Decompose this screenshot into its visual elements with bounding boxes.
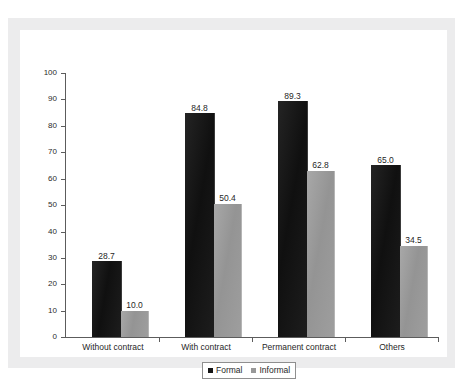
chart-legend: Formal Informal [202,362,296,379]
y-axis-label-70: 70 [33,148,57,156]
legend-label-formal: Formal [216,366,242,375]
y-axis-label-30: 30 [33,254,57,262]
legend-item-formal[interactable]: Formal [208,366,242,375]
y-axis-label-50: 50 [33,201,57,209]
x-tick-sep-4 [438,337,439,342]
bar-value-formal-2: 84.8 [180,104,219,113]
figure-root: 100 90 80 70 60 50 40 30 [0,0,463,381]
legend-swatch-formal-icon [208,368,213,373]
bar-value-informal-2: 50.4 [209,194,246,203]
y-axis-label-90: 90 [33,95,57,103]
y-axis-label-0: 0 [33,333,57,341]
bar-formal-others[interactable] [371,165,401,337]
bar-value-informal-3: 62.8 [302,161,339,170]
bar-informal-permanent-contract[interactable] [307,171,335,337]
legend-swatch-informal-icon [251,368,256,373]
y-tick-0 [61,337,66,338]
bar-formal-with-contract[interactable] [185,113,215,337]
bar-value-informal-1: 10.0 [116,301,153,310]
bar-informal-without-contract[interactable] [121,311,149,337]
y-axis-label-10: 10 [33,307,57,315]
bar-informal-with-contract[interactable] [214,204,242,337]
bar-formal-without-contract[interactable] [92,261,122,337]
x-axis-category-label-4: Others [346,342,438,352]
bar-value-formal-3: 89.3 [273,92,312,101]
x-axis-category-label-3: Permanent contract [253,342,345,352]
y-axis-label-20: 20 [33,280,57,288]
bar-informal-others[interactable] [400,246,428,337]
x-axis-category-label-2: With contract [160,342,252,352]
bar-value-informal-4: 34.5 [395,236,432,245]
x-axis-category-label-1: Without contract [67,342,159,352]
y-axis-label-60: 60 [33,175,57,183]
bar-value-formal-1: 28.7 [87,252,126,261]
bar-value-formal-4: 65.0 [366,156,405,165]
y-axis-label-100: 100 [33,69,57,77]
legend-label-informal: Informal [259,366,290,375]
plot-area: 28.7 10.0 84.8 50.4 89.3 62.8 65.0 34.5 [65,73,438,337]
legend-item-informal[interactable]: Informal [251,366,290,375]
y-axis-label-40: 40 [33,228,57,236]
y-axis-label-80: 80 [33,122,57,130]
chart-card: 100 90 80 70 60 50 40 30 [20,30,447,357]
bar-formal-permanent-contract[interactable] [278,101,308,337]
